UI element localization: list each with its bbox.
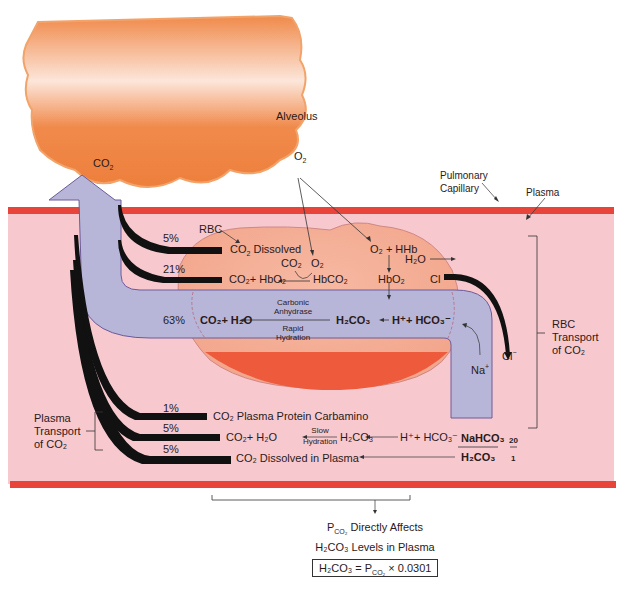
h2o-label: H₂O bbox=[405, 253, 426, 266]
plasma-h2co3: H₂CO₃ bbox=[340, 431, 373, 444]
alveolus-shape bbox=[23, 16, 305, 187]
plasma-protein-carbamino: CO₂ Plasma Protein Carbamino bbox=[213, 410, 368, 423]
co2-small-label: CO₂ bbox=[281, 257, 302, 270]
co2-dissolved-label: CO2 Dissolved bbox=[230, 243, 301, 256]
h2co3-main: H₂CO₃ bbox=[336, 314, 370, 327]
cl-out-label: Cl− bbox=[502, 350, 516, 363]
h2co3-formula-box: H₂CO₃ = PCO₂ × 0.0301 bbox=[312, 559, 438, 577]
o2-small-label: O₂ bbox=[311, 257, 324, 270]
ratio-numerator-value: 20 bbox=[509, 434, 518, 447]
pco2-affects-label: PCO₂ Directly Affects bbox=[310, 521, 440, 534]
na-label: Na+ bbox=[471, 364, 489, 377]
carbonic-anhydrase-label: CarbonicAnhydrase bbox=[263, 298, 323, 316]
rbc-label: RBC bbox=[199, 223, 222, 236]
plasma-label: Plasma bbox=[526, 186, 559, 199]
diagram-canvas bbox=[0, 0, 628, 590]
hbco2-label: HbCO₂ bbox=[313, 273, 348, 286]
cl-label: Cl bbox=[430, 273, 440, 286]
plasma-co2-h2o: CO₂+ H₂O bbox=[226, 431, 277, 444]
h2co3-levels-label: H₂CO₃ Levels in Plasma bbox=[310, 541, 440, 554]
hbo2-label: HbO₂ bbox=[378, 273, 405, 286]
slow-hydration-label: SlowHydration bbox=[302, 426, 338, 446]
ratio-denominator-value: 1 bbox=[511, 452, 515, 465]
percent-rbc-dissolved: 5% bbox=[163, 232, 179, 245]
plasma-transport-label: PlasmaTransportof CO₂ bbox=[34, 412, 81, 451]
h-hco3-main: H⁺+ HCO₃⁻ bbox=[392, 314, 451, 327]
rbc-transport-label: RBCTransportof CO₂ bbox=[552, 318, 599, 357]
pulmonary-capillary-label: PulmonaryCapillary bbox=[440, 169, 488, 195]
alveolus-co2-label: CO2 bbox=[93, 157, 113, 170]
plasma-h-hco3: H⁺+ HCO₃⁻ bbox=[400, 431, 458, 444]
co2-h2o-main: CO₂+ H₂O bbox=[200, 314, 252, 327]
percent-plasma-hydration: 5% bbox=[163, 422, 179, 435]
alveolus-label: Alveolus bbox=[276, 110, 318, 123]
rapid-hydration-label: RapidHydration bbox=[263, 324, 323, 342]
percent-plasma-dissolved: 5% bbox=[163, 443, 179, 456]
percent-plasma-protein: 1% bbox=[163, 402, 179, 415]
alveolus-o2-label: O2 bbox=[294, 150, 306, 163]
co2-dissolved-plasma: CO₂ Dissolved in Plasma bbox=[236, 452, 359, 465]
h2co3-ratio-label: H₂CO₃ bbox=[461, 451, 495, 464]
percent-hbo2-path: 21% bbox=[163, 263, 185, 276]
nahco3-label: NaHCO₃ bbox=[461, 432, 505, 445]
co2-hbo2-label: CO₂+ HbO₂ bbox=[229, 273, 286, 286]
percent-main: 63% bbox=[163, 314, 185, 327]
capillary-wall-bottom bbox=[10, 481, 616, 488]
